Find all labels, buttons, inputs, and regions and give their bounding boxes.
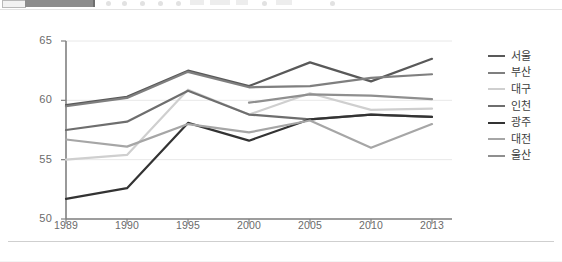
legend-item-대구[interactable]: 대구 [488,81,558,98]
toolbar-icon-3[interactable] [140,1,145,6]
toolbar-divider [93,0,95,7]
x-tick-label: 1989 [40,219,92,231]
legend-swatch-icon [488,55,505,57]
line-chart-plot: 50556065 1989199019952000200520102013 [0,10,562,237]
series-line-부산 [66,72,432,106]
series-line-대구 [66,90,432,160]
y-tick-label: 60 [26,93,52,105]
toolbar-tag[interactable] [2,0,26,8]
legend-swatch-icon [488,155,505,157]
toolbar-icon-1[interactable] [106,1,111,6]
legend-item-광주[interactable]: 광주 [488,114,558,131]
x-tick-label: 2013 [406,219,458,231]
toolbar-icon-4[interactable] [158,1,163,6]
legend-label: 울산 [511,150,531,161]
y-tick-label: 55 [26,153,52,165]
legend-item-서울[interactable]: 서울 [488,48,558,65]
legend-label: 서울 [511,51,531,62]
toolbar-icon-7[interactable] [330,1,335,6]
chart-series-layer [0,10,562,237]
chart-legend: 서울부산대구인천광주대전울산 [488,48,558,164]
legend-label: 대전 [511,134,531,145]
x-tick-label: 2010 [345,219,397,231]
x-tick-label: 1990 [101,219,153,231]
toolbar-icon-6[interactable] [262,1,267,6]
legend-label: 대구 [511,84,531,95]
y-tick-label: 65 [26,34,52,46]
legend-item-대전[interactable]: 대전 [488,131,558,148]
legend-item-울산[interactable]: 울산 [488,148,558,165]
legend-label: 부산 [511,67,531,78]
legend-swatch-icon [488,72,505,74]
toolbar-label-4 [276,0,292,5]
series-line-광주 [66,115,432,199]
legend-swatch-icon [488,88,505,90]
x-tick-label: 2005 [284,219,336,231]
legend-label: 광주 [511,117,531,128]
legend-swatch-icon [488,105,505,107]
x-tick-label: 2000 [223,219,275,231]
chart-card: 50556065 1989199019952000200520102013 서울… [0,10,562,237]
legend-swatch-icon [488,122,505,124]
footer-rule [8,241,554,242]
legend-swatch-icon [488,138,505,140]
toolbar-title-bar [25,0,93,7]
toolbar-label-1 [190,0,204,5]
app-toolbar[interactable] [0,0,562,9]
series-group [66,59,432,199]
toolbar-icon-2[interactable] [122,1,127,6]
series-line-대전 [66,121,432,148]
x-tick-label: 1995 [162,219,214,231]
toolbar-icon-5[interactable] [176,1,181,6]
toolbar-label-2 [210,0,230,5]
legend-item-부산[interactable]: 부산 [488,65,558,82]
legend-label: 인천 [511,101,531,112]
toolbar-label-3 [236,0,248,5]
legend-item-인천[interactable]: 인천 [488,98,558,115]
